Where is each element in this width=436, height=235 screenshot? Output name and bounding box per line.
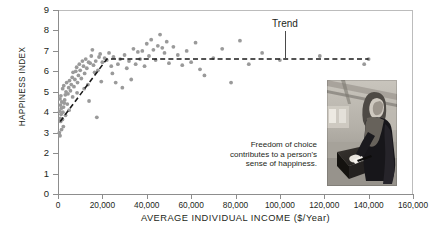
data-point <box>194 41 198 45</box>
data-point <box>95 115 99 119</box>
data-point <box>134 62 138 66</box>
data-point <box>68 79 72 83</box>
data-point <box>87 60 91 64</box>
data-point <box>87 99 91 103</box>
data-point <box>77 62 81 66</box>
data-point <box>149 38 153 42</box>
data-point <box>63 98 67 102</box>
data-point <box>203 74 207 78</box>
data-point <box>60 128 64 132</box>
data-point <box>160 46 164 50</box>
data-point <box>158 33 162 37</box>
data-point <box>84 57 88 61</box>
data-point <box>229 81 233 85</box>
data-point <box>247 62 251 66</box>
data-point <box>76 81 80 85</box>
figure-caption: Freedom of choice contributes to a perso… <box>212 140 317 169</box>
data-point <box>176 53 180 57</box>
data-point <box>260 51 264 55</box>
data-point <box>185 49 189 53</box>
data-point <box>116 62 120 66</box>
data-point <box>94 59 98 63</box>
data-point <box>167 61 171 65</box>
data-point <box>66 92 70 96</box>
data-point <box>82 64 86 68</box>
trend-line <box>60 59 368 121</box>
data-point <box>99 80 103 84</box>
data-point <box>198 67 202 71</box>
data-point <box>132 47 136 51</box>
data-point <box>75 65 79 69</box>
data-point <box>98 52 102 56</box>
data-point <box>110 71 114 75</box>
data-point <box>78 68 82 72</box>
data-point <box>61 110 65 114</box>
data-point <box>85 66 89 70</box>
ballot-photo-illustration <box>327 80 397 186</box>
data-point <box>81 59 85 63</box>
data-point <box>362 62 366 66</box>
trend-leader-line <box>285 31 286 58</box>
data-point <box>180 63 184 67</box>
data-point <box>163 51 167 55</box>
data-point <box>107 51 111 55</box>
data-point <box>220 47 224 51</box>
data-point <box>90 48 94 52</box>
data-point <box>92 63 96 67</box>
data-point <box>140 49 144 53</box>
data-points-group <box>57 33 370 138</box>
data-point <box>69 89 73 93</box>
data-point <box>74 69 78 73</box>
data-point <box>125 66 129 70</box>
data-point <box>65 102 69 106</box>
data-point <box>79 77 83 81</box>
data-point <box>238 39 242 43</box>
data-point <box>59 94 63 98</box>
data-point <box>62 105 66 109</box>
data-point <box>62 84 66 88</box>
data-point <box>89 54 93 58</box>
data-point <box>109 64 113 68</box>
data-point <box>123 53 127 57</box>
data-point <box>72 85 76 89</box>
data-point <box>318 54 322 58</box>
data-point <box>120 86 124 90</box>
data-point <box>75 91 79 95</box>
data-point <box>100 60 104 64</box>
data-point <box>136 50 140 54</box>
trend-annotation-label: Trend <box>245 18 325 29</box>
data-point <box>83 71 87 75</box>
data-point <box>156 44 160 48</box>
data-point <box>71 95 75 99</box>
data-point <box>165 40 169 44</box>
data-point <box>129 78 133 82</box>
data-point <box>145 42 149 46</box>
chart-figure: 0123456789 020,00040,00060,00080,000100,… <box>0 0 436 235</box>
data-point <box>147 54 151 58</box>
data-point <box>189 60 193 64</box>
data-point <box>171 45 175 49</box>
ballot-photo <box>327 80 397 186</box>
data-point <box>114 81 118 85</box>
data-point <box>73 78 77 82</box>
data-point <box>143 64 147 68</box>
data-point <box>58 134 62 138</box>
data-point <box>77 74 81 78</box>
data-point <box>152 48 156 52</box>
